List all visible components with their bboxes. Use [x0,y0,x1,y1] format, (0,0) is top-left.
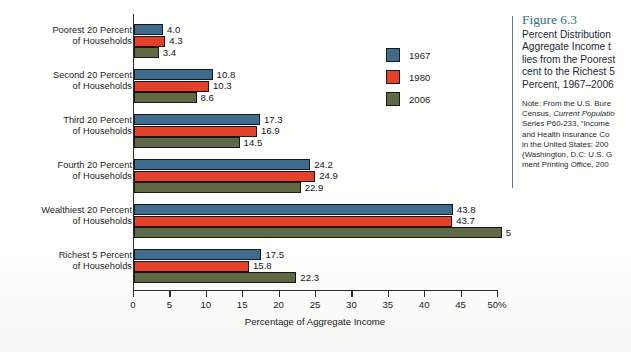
bar-value-label: 10.8 [217,69,236,80]
category-label: Second 20 Percentof Households [12,70,132,93]
caption-note-line: Census, Current Populatio [522,109,631,119]
x-axis-tick-label: 25 [310,299,321,310]
x-axis-tick-label: 50% [487,299,506,310]
legend-swatch [386,92,400,106]
x-axis-tick [388,291,389,297]
caption-note: Note: From the U.S. BureCensus, Current … [522,99,631,170]
bar-value-label: 4.3 [169,35,182,46]
caption-note-line: and Health Insurance Co [522,130,631,140]
category-label: Third 20 Percentof Households [12,115,132,138]
bar-value-label: 22.3 [300,272,319,283]
legend-label: 1967 [409,50,430,61]
category-label-line2: of Households [12,261,132,272]
x-axis-tick [169,291,170,297]
x-axis-tick [351,291,352,297]
bar [134,137,240,148]
bar-value-label: 43.8 [457,204,476,215]
x-axis-tick [461,291,462,297]
caption-title-line: cent to the Richest 5 [522,66,631,78]
legend-swatch [386,70,400,84]
x-axis-tick-label: 20 [273,299,284,310]
caption-note-line: Series P60-233, “Income [522,119,631,129]
bar [134,227,502,238]
chart-legend: 196719802006 [386,44,466,110]
caption-note-line: ment Printing Office, 200 [522,160,631,170]
bar-value-label: 22.9 [305,182,324,193]
x-axis-tick [424,291,425,297]
x-axis-tick-label: 40 [419,299,430,310]
x-axis-tick [315,291,316,297]
x-axis-tick-label: 15 [237,299,248,310]
legend-item: 1980 [386,66,466,88]
bar [134,114,260,125]
category-label: Richest 5 Percentof Households [12,250,132,273]
category-label-line1: Poorest 20 Percent [12,25,132,36]
x-axis-tick-label: 0 [130,299,135,310]
x-axis-tick-label: 30 [346,299,357,310]
caption-title-line: Percent Distribution [522,29,631,41]
caption-title: Percent DistributionAggregate Income tli… [522,29,631,91]
category-label: Fourth 20 Percentof Households [12,160,132,183]
bar-value-label: 43.7 [456,215,475,226]
category-label-line1: Richest 5 Percent [12,250,132,261]
category-label-line2: of Households [12,216,132,227]
legend-item: 1967 [386,44,466,66]
bar-value-label: 16.9 [261,125,280,136]
legend-item: 2006 [386,88,466,110]
category-label: Wealthiest 20 Percentof Households [12,205,132,228]
bar-value-label: 24.9 [319,170,338,181]
bar-value-label: 5 [506,227,511,238]
x-axis-tick-label: 5 [167,299,172,310]
bar-value-label: 10.3 [213,80,232,91]
bar [134,81,209,92]
category-label-line1: Third 20 Percent [12,115,132,126]
bar-value-label: 24.2 [314,159,333,170]
bar [134,216,452,227]
bar-value-label: 14.5 [244,137,263,148]
figure-caption-panel: Figure 6.3 Percent DistributionAggregate… [507,12,631,192]
legend-swatch [386,48,400,62]
bar [134,182,301,193]
category-label-line2: of Households [12,126,132,137]
x-axis-tick [133,291,134,297]
x-axis-tick [497,291,498,297]
x-axis-tick [279,291,280,297]
bar-value-label: 4.0 [167,24,180,35]
bar [134,24,163,35]
category-label-line1: Second 20 Percent [12,70,132,81]
x-axis-title: Percentage of Aggregate Income [133,316,497,327]
bar [134,159,310,170]
figure-number: Figure 6.3 [522,12,631,27]
bar [134,47,159,58]
bar [134,261,249,272]
x-axis-tick [242,291,243,297]
bar-value-label: 17.3 [264,114,283,125]
x-axis-tick-label: 45 [455,299,466,310]
bar [134,272,296,283]
x-axis-tick [206,291,207,297]
bar-chart-figure: Poorest 20 Percentof HouseholdsSecond 20… [0,0,505,352]
caption-note-line: in the United States: 200 [522,140,631,150]
x-axis-tick-label: 10 [200,299,211,310]
category-label-line2: of Households [12,171,132,182]
bar [134,171,315,182]
category-label-line1: Wealthiest 20 Percent [12,205,132,216]
legend-label: 2006 [409,94,430,105]
category-label-line2: of Households [12,36,132,47]
category-label-line1: Fourth 20 Percent [12,160,132,171]
bar [134,92,197,103]
caption-divider-rule [512,16,513,188]
bar-value-label: 3.4 [163,47,176,58]
category-label: Poorest 20 Percentof Households [12,25,132,48]
bar-value-label: 8.6 [201,92,214,103]
category-label-line2: of Households [12,81,132,92]
caption-body: Figure 6.3 Percent DistributionAggregate… [522,12,631,170]
category-axis-labels: Poorest 20 Percentof HouseholdsSecond 20… [8,0,132,352]
bar [134,204,453,215]
bar [134,69,213,80]
caption-note-line: (Washington, D.C: U.S. G [522,150,631,160]
caption-title-line: Percent, 1967–2006 [522,79,631,91]
bar [134,126,257,137]
bar [134,36,165,47]
legend-label: 1980 [409,72,430,83]
